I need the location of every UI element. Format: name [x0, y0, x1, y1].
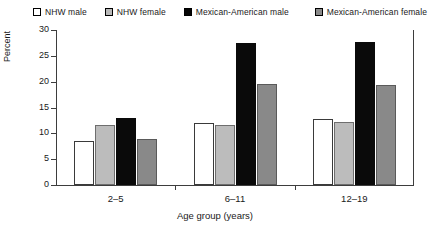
y-tick-label: 15 — [39, 102, 49, 113]
y-tick-mark — [51, 82, 56, 83]
legend-swatch-mid-gray-icon — [315, 8, 323, 16]
legend-item-mexican-american-male: Mexican-American male — [184, 7, 289, 17]
bar — [74, 141, 94, 185]
y-tick-label: 10 — [39, 127, 49, 138]
legend-label: NHW female — [117, 7, 166, 17]
y-axis-line — [56, 30, 57, 185]
y-tick-mark — [51, 185, 56, 186]
y-tick-mark — [51, 133, 56, 134]
right-axis-line — [413, 30, 414, 185]
bar — [313, 119, 333, 185]
y-tick-label: 20 — [39, 76, 49, 87]
y-tick-mark — [51, 56, 56, 57]
y-tick-label: 0 — [44, 179, 49, 190]
y-tick-label: 25 — [39, 50, 49, 61]
legend-label: Mexican-American male — [196, 7, 289, 17]
legend-item-nhw-male: NHW male — [33, 7, 87, 17]
x-axis-title: Age group (years) — [0, 210, 430, 222]
bar — [194, 123, 214, 185]
legend-label: NHW male — [45, 7, 87, 17]
bar — [334, 122, 354, 185]
bar — [95, 125, 115, 185]
chart-legend: NHW male NHW female Mexican-American mal… — [0, 4, 430, 20]
y-tick-mark — [51, 30, 56, 31]
legend-swatch-light-gray-icon — [105, 8, 113, 16]
y-axis-title: Percent — [2, 31, 12, 62]
x-group-label: 6–11 — [175, 193, 294, 205]
legend-label: Mexican-American female — [327, 7, 427, 17]
bar — [215, 125, 235, 185]
x-group-label: 12–19 — [295, 193, 414, 205]
x-tick-mark — [295, 185, 296, 190]
legend-swatch-black-icon — [184, 8, 192, 16]
legend-swatch-open-icon — [33, 8, 41, 16]
y-tick-label: 5 — [44, 153, 49, 164]
bar — [355, 42, 375, 185]
bar — [137, 139, 157, 186]
x-axis-line — [56, 185, 414, 186]
y-tick-mark — [51, 159, 56, 160]
bar — [236, 43, 256, 185]
legend-item-nhw-female: NHW female — [105, 7, 166, 17]
x-tick-mark — [175, 185, 176, 190]
bar — [116, 118, 136, 185]
plot-area: 051015202530 2–56–1112–19 — [56, 30, 414, 185]
legend-item-mexican-american-female: Mexican-American female — [315, 7, 427, 17]
y-tick-mark — [51, 108, 56, 109]
y-tick-label: 30 — [39, 24, 49, 35]
x-group-label: 2–5 — [56, 193, 175, 205]
bar-chart: NHW male NHW female Mexican-American mal… — [0, 0, 430, 234]
bar — [376, 85, 396, 185]
bar — [257, 84, 277, 185]
